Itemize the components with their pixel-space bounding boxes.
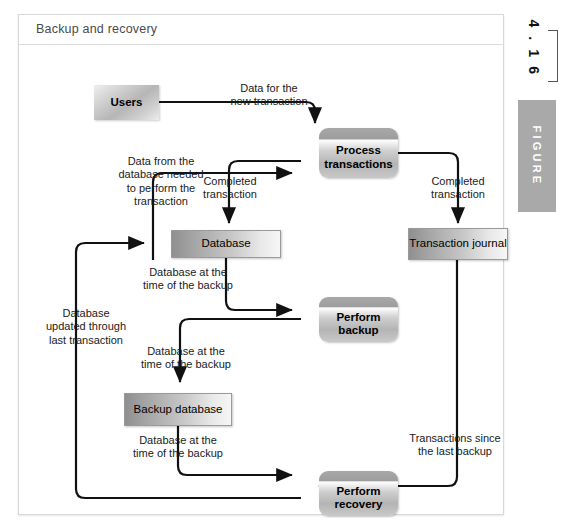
edge-label-transactions-since-last-backup: Transactions since the last backup: [393, 432, 517, 459]
figure-number: 4 . 1 6: [522, 14, 546, 82]
node-perform-recovery[interactable]: Perform recovery: [319, 471, 398, 516]
node-backup-database[interactable]: Backup database: [124, 393, 232, 426]
diagram-canvas: Users Process transactions Database Tran…: [19, 45, 505, 515]
figure-number-block: 4 . 1 6: [512, 14, 556, 82]
node-database[interactable]: Database: [171, 230, 281, 258]
figure-panel-header: Backup and recovery: [19, 15, 503, 45]
figure-panel: Backup and recovery: [18, 14, 504, 515]
figure-marker-label: FIGURE: [518, 100, 556, 212]
edge-label-data-for-new-transaction: Data for the new transaction: [209, 82, 329, 109]
figure-title: Backup and recovery: [36, 22, 157, 36]
edge-label-database-at-backup-1: Database at the time of the backup: [125, 266, 251, 293]
edge-label-completed-transaction-db: Completed transaction: [187, 175, 273, 202]
edge-label-database-at-backup-3: Database at the time of the backup: [115, 434, 241, 461]
node-process-transactions[interactable]: Process transactions: [319, 128, 398, 178]
figure-bracket: [548, 30, 558, 82]
node-perform-backup[interactable]: Perform backup: [319, 297, 398, 342]
edge-label-database-at-backup-2: Database at the time of the backup: [123, 345, 249, 372]
edge-label-database-updated-through: Database updated through last transactio…: [31, 307, 141, 347]
node-users[interactable]: Users: [94, 85, 159, 120]
edge-label-completed-transaction-journal: Completed transaction: [415, 175, 501, 202]
figure-marker-tab: FIGURE: [518, 100, 556, 212]
node-transaction-journal[interactable]: Transaction journal: [408, 228, 508, 260]
